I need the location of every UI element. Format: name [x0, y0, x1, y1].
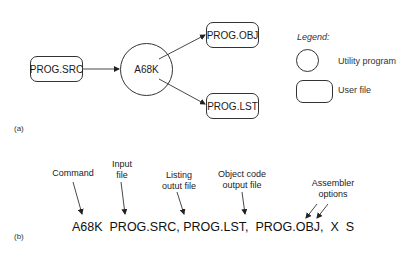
annotation-options-line2: options [308, 189, 358, 200]
arrow-command [73, 182, 82, 214]
arrow-input-file [121, 182, 125, 214]
annotation-assembler-options: Assembler options [308, 178, 358, 200]
arrow-option-x [306, 204, 317, 218]
annotation-listing-file: Listing outut file [154, 170, 204, 192]
annotation-options-line1: Assembler [308, 178, 358, 189]
arrow-listing-file [177, 192, 184, 214]
annotation-object-line2: output file [212, 180, 272, 191]
legend-user-file-label: User file [338, 85, 371, 95]
part-b-label: (b) [14, 232, 24, 241]
arrow-a68k-to-lst [159, 79, 205, 104]
legend-user-file-symbol [296, 80, 333, 103]
annotation-input-line1: Input [104, 159, 140, 170]
annotation-object-file: Object code output file [212, 169, 272, 191]
legend-utility-symbol [296, 49, 319, 72]
annotation-input-line2: file [104, 170, 140, 181]
arrow-object-file [242, 192, 245, 214]
command-line: A68K PROG.SRC, PROG.LST, PROG.OBJ, X S [72, 220, 354, 234]
annotation-listing-line2: outut file [154, 181, 204, 192]
annotation-listing-line1: Listing [154, 170, 204, 181]
annotation-object-line1: Object code [212, 169, 272, 180]
legend-utility-label: Utility program [338, 56, 396, 66]
legend-title: Legend: [297, 32, 330, 42]
part-a-label: (a) [14, 124, 24, 133]
diagram-arrows [0, 0, 410, 256]
annotation-input-file: Input file [104, 159, 140, 181]
annotation-command: Command [48, 168, 98, 179]
arrow-option-s [317, 204, 328, 218]
arrow-a68k-to-obj [159, 35, 205, 59]
